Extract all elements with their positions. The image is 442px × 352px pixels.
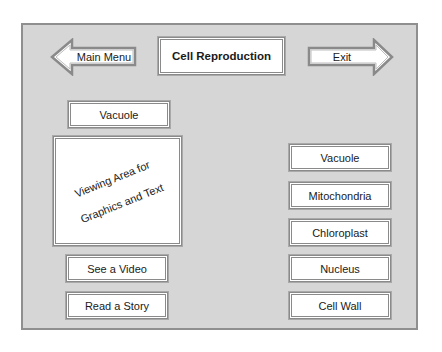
topic-button-mitochondria[interactable]: Mitochondria (289, 182, 391, 209)
read-story-button[interactable]: Read a Story (66, 292, 168, 319)
page-title: Cell Reproduction (158, 37, 285, 75)
topic-button-chloroplast[interactable]: Chloroplast (289, 219, 391, 246)
topic-button-vacuole[interactable]: Vacuole (289, 144, 391, 171)
exit-button[interactable]: Exit (306, 38, 394, 76)
topic-button-cell-wall[interactable]: Cell Wall (289, 292, 391, 319)
viewing-area-text: Viewing Area for Graphics and Text (64, 144, 170, 237)
see-video-button[interactable]: See a Video (66, 255, 168, 282)
main-menu-label: Main Menu (74, 48, 134, 66)
topic-button-nucleus[interactable]: Nucleus (289, 255, 391, 282)
selected-topic-label: Vacuole (68, 101, 170, 128)
exit-label: Exit (311, 48, 373, 66)
viewing-area: Viewing Area for Graphics and Text (53, 136, 182, 246)
main-menu-button[interactable]: Main Menu (50, 38, 138, 76)
